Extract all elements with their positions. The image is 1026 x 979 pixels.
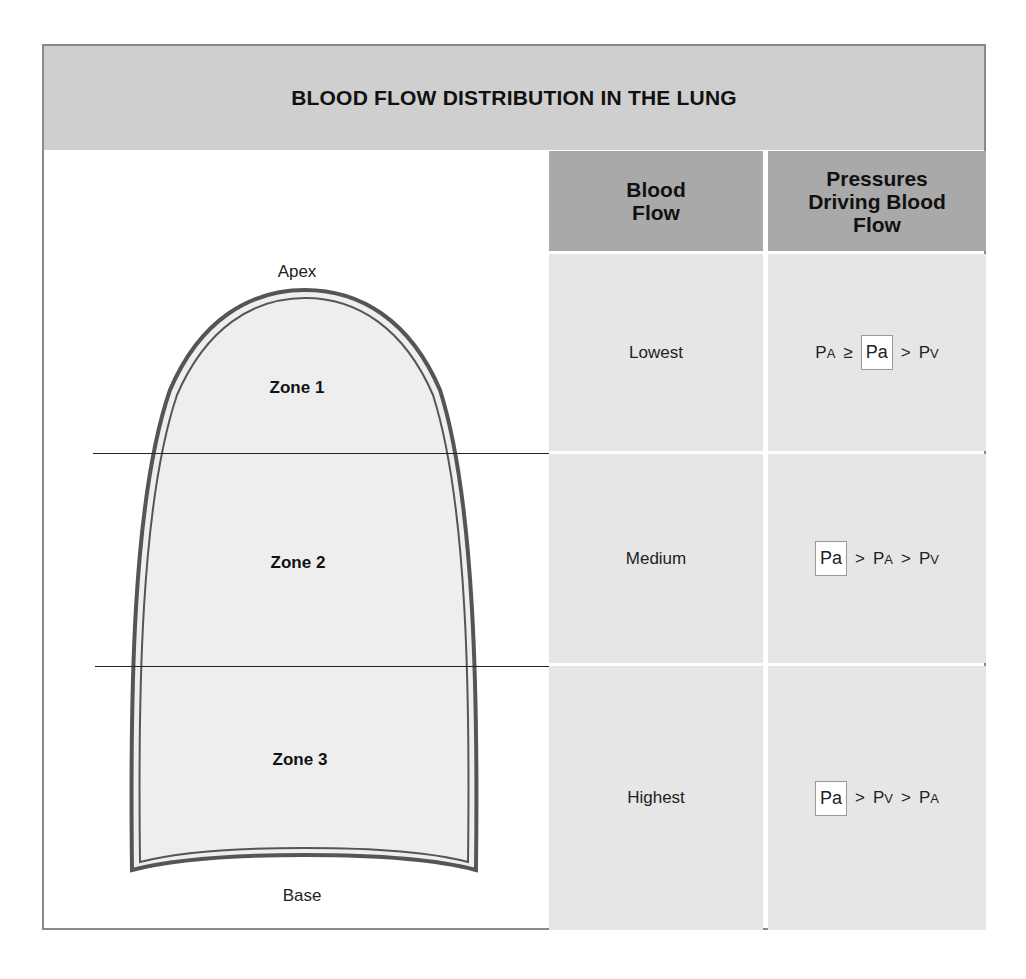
operator: ≥ bbox=[843, 343, 852, 363]
zone-3-label: Zone 3 bbox=[273, 750, 328, 770]
pressure-term: PA bbox=[815, 343, 835, 363]
pressure-equation: Pa>PA>PV bbox=[815, 541, 939, 576]
cell-text: Highest bbox=[627, 788, 685, 808]
pressure-term: PV bbox=[919, 343, 939, 363]
header-blood-flow: Blood Flow bbox=[549, 151, 763, 251]
pressure-term: PV bbox=[919, 549, 939, 569]
row-3-blood-flow: Highest bbox=[549, 666, 763, 930]
header-text: Flow bbox=[632, 201, 680, 224]
header-text: Driving Blood bbox=[808, 190, 946, 213]
pressure-term: PV bbox=[873, 788, 893, 808]
boxed-pressure: Pa bbox=[861, 335, 893, 370]
zone-divider-2 bbox=[95, 666, 551, 667]
pressure-term: PA bbox=[873, 549, 893, 569]
boxed-pressure: Pa bbox=[815, 541, 847, 576]
operator: > bbox=[901, 549, 911, 569]
operator: > bbox=[901, 343, 911, 363]
pressure-equation: PA≥Pa>PV bbox=[815, 335, 938, 370]
zone-2-label: Zone 2 bbox=[271, 553, 326, 573]
operator: > bbox=[855, 788, 865, 808]
header-text: Pressures bbox=[826, 167, 928, 190]
row-2-blood-flow: Medium bbox=[549, 454, 763, 663]
header-text: Blood bbox=[626, 178, 685, 201]
zone-divider-1 bbox=[93, 453, 549, 454]
cell-text: Lowest bbox=[629, 343, 683, 363]
operator: > bbox=[901, 788, 911, 808]
row-3-pressure: Pa>PV>PA bbox=[768, 666, 986, 930]
cell-text: Medium bbox=[626, 549, 686, 569]
header-text: Flow bbox=[853, 213, 901, 236]
header-pressures: Pressures Driving Blood Flow bbox=[768, 151, 986, 251]
zone-1-label: Zone 1 bbox=[270, 378, 325, 398]
boxed-pressure: Pa bbox=[815, 781, 847, 816]
row-1-pressure: PA≥Pa>PV bbox=[768, 254, 986, 451]
base-label: Base bbox=[283, 886, 322, 906]
apex-label: Apex bbox=[278, 262, 317, 282]
pressure-equation: Pa>PV>PA bbox=[815, 781, 939, 816]
operator: > bbox=[855, 549, 865, 569]
pressure-term: PA bbox=[919, 788, 939, 808]
row-1-blood-flow: Lowest bbox=[549, 254, 763, 451]
row-2-pressure: Pa>PA>PV bbox=[768, 454, 986, 663]
